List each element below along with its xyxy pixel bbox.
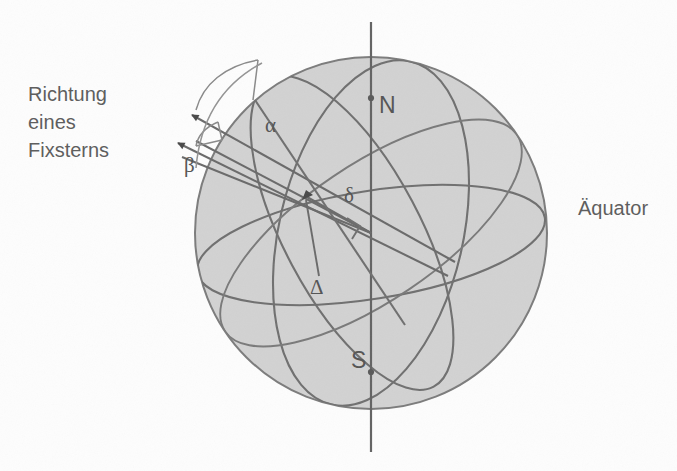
equator-label: Äquator [578,196,648,222]
alpha-outer-arc [196,60,258,110]
south-pole-dot [368,369,374,375]
sphere-diagram-svg [0,0,677,471]
caption-line-2: eines [28,110,76,136]
south-pole-label: S [351,346,366,375]
delta-label: δ [344,182,354,209]
caption-line-1: Richtung [28,82,107,108]
alpha-label: α [265,112,276,139]
celestial-sphere-figure: Richtung eines Fixsterns Äquator N S α β… [0,0,677,471]
north-pole-label: N [379,91,396,120]
north-pole-dot [368,95,374,101]
big-delta-label: Δ [310,274,324,301]
caption-line-3: Fixsterns [28,138,109,164]
beta-label: β [184,152,195,179]
